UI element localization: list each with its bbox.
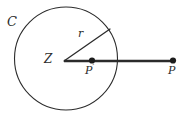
point-p-dot (170, 57, 176, 63)
radius-segment-line (64, 29, 110, 61)
prime-mark-icon: ′ (92, 63, 94, 71)
circle-c-outline (15, 7, 118, 110)
geometry-canvas (0, 0, 186, 118)
point-label-p-prime: P′ (85, 64, 94, 76)
geometry-figure: C Z r P′ P (0, 0, 186, 118)
center-label-z: Z (44, 53, 52, 65)
circle-label-c: C (7, 15, 17, 28)
point-label-p: P (168, 65, 175, 76)
radius-label-r: r (78, 28, 83, 39)
